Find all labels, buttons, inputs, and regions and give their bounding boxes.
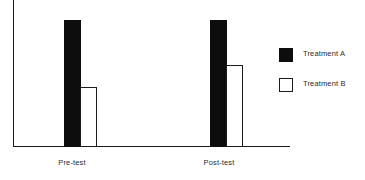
legend-label-treatment-a: Treatment A [303, 49, 345, 58]
bar-post-test-treatment-a [210, 20, 227, 147]
bar-pre-test-treatment-b [80, 87, 97, 147]
category-label-pre-test: Pre-test [52, 158, 92, 167]
y-axis-line [13, 0, 14, 147]
legend-swatch-icon-treatment-b [279, 78, 293, 92]
category-label-post-test: Post-test [197, 158, 241, 167]
legend-label-treatment-b: Treatment B [303, 79, 346, 88]
bar-pre-test-treatment-a [64, 20, 81, 147]
bar-chart: Pre-test Post-test Treatment A Treatment… [0, 0, 365, 180]
legend-swatch-icon-treatment-a [279, 48, 293, 62]
bar-post-test-treatment-b [226, 65, 243, 147]
x-axis-line [13, 146, 290, 147]
